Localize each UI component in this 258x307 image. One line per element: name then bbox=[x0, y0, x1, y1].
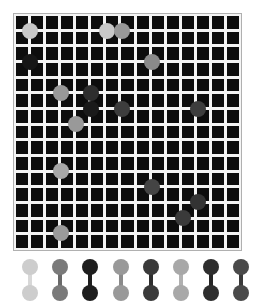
game-board[interactable] bbox=[13, 13, 242, 251]
board-cell[interactable] bbox=[167, 94, 179, 107]
board-cell[interactable] bbox=[212, 94, 224, 107]
board-cell[interactable] bbox=[227, 94, 239, 107]
stone-marker[interactable] bbox=[22, 54, 38, 70]
board-cell[interactable] bbox=[121, 157, 133, 170]
board-cell[interactable] bbox=[167, 126, 179, 139]
board-cell[interactable] bbox=[212, 173, 224, 186]
board-cell[interactable] bbox=[76, 141, 88, 154]
board-cell[interactable] bbox=[227, 157, 239, 170]
board-cell[interactable] bbox=[197, 220, 209, 233]
board-cell[interactable] bbox=[137, 141, 149, 154]
board-cell[interactable] bbox=[137, 157, 149, 170]
board-cell[interactable] bbox=[91, 220, 103, 233]
board-cell[interactable] bbox=[212, 79, 224, 92]
board-cell[interactable] bbox=[197, 173, 209, 186]
board-cell[interactable] bbox=[106, 204, 118, 217]
board-cell[interactable] bbox=[227, 235, 239, 248]
board-cell[interactable] bbox=[91, 63, 103, 76]
board-cell[interactable] bbox=[91, 173, 103, 186]
board-cell[interactable] bbox=[182, 47, 194, 60]
board-cell[interactable] bbox=[212, 110, 224, 123]
board-cell[interactable] bbox=[16, 204, 28, 217]
board-cell[interactable] bbox=[182, 173, 194, 186]
board-cell[interactable] bbox=[212, 126, 224, 139]
board-cell[interactable] bbox=[137, 110, 149, 123]
board-cell[interactable] bbox=[152, 235, 164, 248]
board-cell[interactable] bbox=[167, 173, 179, 186]
board-cell[interactable] bbox=[167, 157, 179, 170]
board-cell[interactable] bbox=[197, 141, 209, 154]
board-cell[interactable] bbox=[106, 173, 118, 186]
board-cell[interactable] bbox=[31, 235, 43, 248]
board-cell[interactable] bbox=[106, 157, 118, 170]
board-cell[interactable] bbox=[167, 141, 179, 154]
board-cell[interactable] bbox=[76, 32, 88, 45]
board-cell[interactable] bbox=[197, 157, 209, 170]
board-cell[interactable] bbox=[182, 32, 194, 45]
board-cell[interactable] bbox=[212, 47, 224, 60]
board-cell[interactable] bbox=[106, 141, 118, 154]
tray-piece[interactable] bbox=[173, 259, 189, 303]
tray-piece[interactable] bbox=[52, 259, 68, 303]
stone-marker[interactable] bbox=[114, 23, 130, 39]
board-cell[interactable] bbox=[31, 220, 43, 233]
board-cell[interactable] bbox=[121, 63, 133, 76]
board-cell[interactable] bbox=[167, 16, 179, 29]
board-cell[interactable] bbox=[106, 63, 118, 76]
stone-marker[interactable] bbox=[22, 23, 38, 39]
board-cell[interactable] bbox=[212, 63, 224, 76]
board-cell[interactable] bbox=[227, 126, 239, 139]
board-cell[interactable] bbox=[152, 204, 164, 217]
board-cell[interactable] bbox=[197, 63, 209, 76]
stone-marker[interactable] bbox=[99, 23, 115, 39]
board-cell[interactable] bbox=[167, 188, 179, 201]
board-cell[interactable] bbox=[137, 32, 149, 45]
stone-marker[interactable] bbox=[190, 194, 206, 210]
board-cell[interactable] bbox=[31, 157, 43, 170]
board-cell[interactable] bbox=[182, 157, 194, 170]
board-cell[interactable] bbox=[76, 188, 88, 201]
board-cell[interactable] bbox=[212, 188, 224, 201]
board-cell[interactable] bbox=[31, 204, 43, 217]
board-cell[interactable] bbox=[61, 32, 73, 45]
stone-marker[interactable] bbox=[114, 101, 130, 117]
board-cell[interactable] bbox=[212, 220, 224, 233]
board-cell[interactable] bbox=[31, 110, 43, 123]
board-cell[interactable] bbox=[137, 204, 149, 217]
board-cell[interactable] bbox=[16, 173, 28, 186]
board-cell[interactable] bbox=[227, 79, 239, 92]
board-cell[interactable] bbox=[227, 220, 239, 233]
board-cell[interactable] bbox=[121, 204, 133, 217]
board-cell[interactable] bbox=[76, 157, 88, 170]
board-cell[interactable] bbox=[182, 63, 194, 76]
board-cell[interactable] bbox=[182, 79, 194, 92]
board-cell[interactable] bbox=[76, 63, 88, 76]
board-cell[interactable] bbox=[227, 63, 239, 76]
board-cell[interactable] bbox=[182, 235, 194, 248]
board-cell[interactable] bbox=[61, 188, 73, 201]
board-cell[interactable] bbox=[167, 32, 179, 45]
stone-marker[interactable] bbox=[53, 163, 69, 179]
board-cell[interactable] bbox=[137, 79, 149, 92]
board-cell[interactable] bbox=[227, 141, 239, 154]
tray-piece[interactable] bbox=[143, 259, 159, 303]
board-cell[interactable] bbox=[91, 47, 103, 60]
board-cell[interactable] bbox=[167, 79, 179, 92]
board-cell[interactable] bbox=[16, 94, 28, 107]
board-cell[interactable] bbox=[121, 220, 133, 233]
stone-marker[interactable] bbox=[53, 85, 69, 101]
board-cell[interactable] bbox=[137, 220, 149, 233]
board-cell[interactable] bbox=[152, 16, 164, 29]
board-cell[interactable] bbox=[121, 79, 133, 92]
board-cell[interactable] bbox=[76, 235, 88, 248]
board-cell[interactable] bbox=[212, 235, 224, 248]
board-cell[interactable] bbox=[76, 173, 88, 186]
board-cell[interactable] bbox=[16, 220, 28, 233]
board-cell[interactable] bbox=[137, 126, 149, 139]
board-cell[interactable] bbox=[61, 204, 73, 217]
board-cell[interactable] bbox=[197, 79, 209, 92]
board-cell[interactable] bbox=[91, 188, 103, 201]
board-cell[interactable] bbox=[46, 126, 58, 139]
board-cell[interactable] bbox=[16, 141, 28, 154]
board-cell[interactable] bbox=[61, 63, 73, 76]
